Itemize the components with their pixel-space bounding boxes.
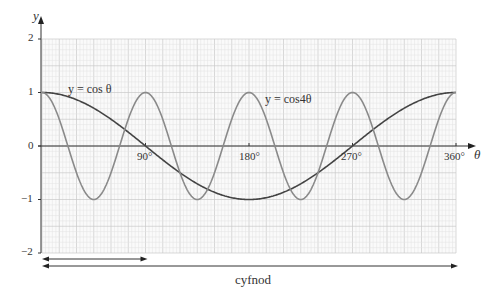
y-tick-0: 0 xyxy=(28,139,34,151)
period-arrows xyxy=(42,257,458,269)
curve-label-cos4: y = cos4θ xyxy=(265,92,312,107)
x-axis-label: θ xyxy=(474,147,480,163)
y-tick-2: 2 xyxy=(28,31,34,43)
period-label: cyfnod xyxy=(235,272,271,288)
x-tick-360: 360° xyxy=(444,150,465,162)
y-tick-neg2: −2 xyxy=(21,245,33,257)
y-tick-neg1: −1 xyxy=(21,192,33,204)
curve-label-cos: y = cos θ xyxy=(68,82,112,97)
curve-label-cos-text: y = cos θ xyxy=(68,82,112,96)
y-axis-label: y xyxy=(33,8,39,24)
x-tick-90: 90° xyxy=(137,150,152,162)
y-tick-1: 1 xyxy=(28,85,34,97)
x-tick-270: 270° xyxy=(341,150,362,162)
x-tick-180: 180° xyxy=(239,150,260,162)
curve-label-cos4-text: y = cos4θ xyxy=(265,92,312,106)
